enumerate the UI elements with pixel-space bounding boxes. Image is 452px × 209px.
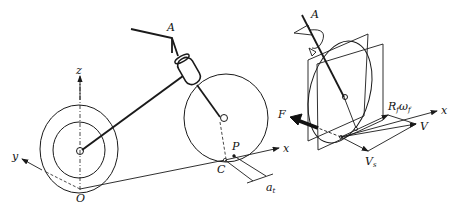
label-a-left: A bbox=[166, 21, 175, 34]
steering-axis-lower bbox=[344, 97, 356, 128]
label-y: y bbox=[11, 150, 19, 163]
handlebar bbox=[131, 29, 172, 53]
label-x-left: x bbox=[283, 142, 290, 155]
label-p: P bbox=[231, 140, 240, 153]
label-v: V bbox=[420, 120, 429, 133]
rear-wheel-inner bbox=[53, 122, 105, 178]
slip-velocity-arrow bbox=[341, 137, 368, 151]
force-arrow bbox=[297, 120, 318, 128]
label-spin-velocity: Rfωf bbox=[387, 100, 412, 114]
right-diagram bbox=[290, 15, 437, 151]
label-z: z bbox=[75, 64, 82, 77]
force-dashed bbox=[318, 128, 341, 137]
force-arrowhead bbox=[290, 114, 302, 125]
label-a-right: A bbox=[310, 8, 319, 21]
steer-rotation-tip bbox=[309, 48, 316, 56]
label-trail: at bbox=[266, 181, 276, 195]
head-tube bbox=[174, 52, 203, 87]
label-o: O bbox=[76, 192, 85, 205]
y-axis-line bbox=[44, 171, 80, 189]
frame-bar bbox=[82, 76, 183, 150]
y-axis-arrow bbox=[22, 159, 42, 170]
front-hub bbox=[221, 115, 228, 122]
rear-wheel-outer bbox=[40, 105, 118, 193]
front-wheel bbox=[184, 74, 268, 162]
parallelogram-top bbox=[388, 115, 416, 124]
trail-line-2 bbox=[234, 156, 266, 176]
label-vs: Vs bbox=[365, 155, 377, 169]
label-f: F bbox=[277, 108, 286, 121]
front-fork bbox=[197, 85, 220, 117]
trail-line-1 bbox=[225, 160, 253, 181]
motorcycle-kinematics-diagram: A z y O x C P at bbox=[0, 0, 452, 209]
label-c: C bbox=[217, 163, 226, 176]
label-x-right: x bbox=[441, 104, 448, 117]
left-diagram bbox=[22, 29, 279, 193]
steering-axis-extension bbox=[220, 122, 226, 159]
